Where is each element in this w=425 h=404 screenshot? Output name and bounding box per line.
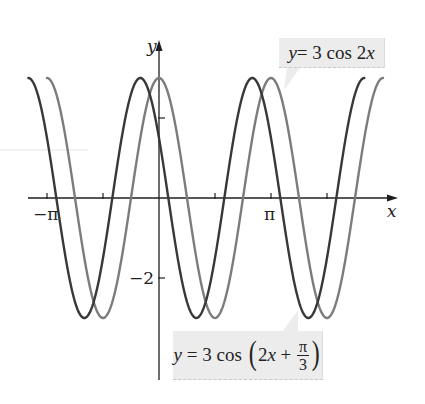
callout-eq-text: = 3 cos 2 bbox=[297, 42, 366, 64]
callout-label-3cos2x: y = 3 cos 2x bbox=[279, 38, 385, 68]
y-tick-label-neg-2: −2 bbox=[129, 268, 154, 288]
x-axis bbox=[28, 195, 398, 202]
callout-var-y: y bbox=[174, 344, 182, 366]
callout-var-x: x bbox=[267, 344, 275, 366]
x-tick-label-neg-pi: −π bbox=[33, 204, 58, 224]
x-axis-label: x bbox=[387, 201, 397, 221]
callout-top-pointer bbox=[284, 68, 300, 90]
callout-coef: 2 bbox=[258, 344, 268, 366]
fraction-denominator: 3 bbox=[299, 356, 307, 373]
y-axis-label: y bbox=[146, 36, 157, 56]
callout-label-3cos2x-plus-pi-over-3: y = 3 cos (2x + π3) bbox=[173, 331, 323, 380]
callout-var-y: y bbox=[288, 42, 296, 64]
callout-eq-text: = 3 cos bbox=[182, 344, 247, 366]
x-tick-label-pi: π bbox=[264, 204, 275, 224]
right-paren: ) bbox=[312, 336, 320, 370]
callout-plus: + bbox=[276, 344, 296, 366]
callout-bottom-pointer bbox=[283, 310, 298, 331]
fraction-pi-over-3: π3 bbox=[297, 338, 309, 373]
chart-figure: y x −π π −2 y = 3 cos 2x y = 3 cos (2x +… bbox=[0, 0, 425, 404]
callout-var-x: x bbox=[366, 42, 374, 64]
left-paren: ( bbox=[248, 336, 256, 370]
y-axis bbox=[156, 40, 163, 380]
fraction-numerator: π bbox=[297, 338, 309, 356]
